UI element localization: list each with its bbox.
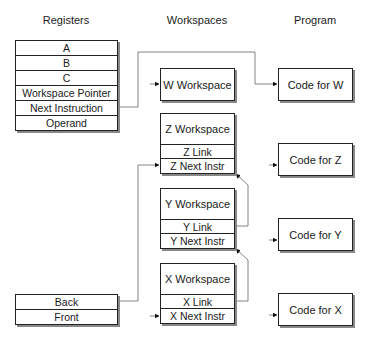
code-for-w: Code for W — [278, 68, 353, 101]
code-for-x-label: Code for X — [279, 294, 352, 325]
code-for-y: Code for Y — [278, 218, 353, 251]
x-workspace-title: X Workspace — [161, 264, 234, 295]
z-workspace-title: Z Workspace — [161, 114, 234, 145]
z-workspace: Z Workspace Z Link Z Next Instr — [160, 113, 235, 174]
registers-box: A B C Workspace Pointer Next Instruction… — [15, 40, 118, 131]
register-front: Front — [16, 310, 117, 324]
y-workspace: Y Workspace Y Link Y Next Instr — [160, 188, 235, 249]
register-a: A — [16, 41, 117, 56]
w-workspace: W Workspace — [160, 68, 235, 101]
code-for-x: Code for X — [278, 293, 353, 326]
y-workspace-title: Y Workspace — [161, 189, 234, 220]
code-for-w-label: Code for W — [279, 69, 352, 100]
z-next-instr: Z Next Instr — [161, 159, 234, 173]
x-workspace: X Workspace X Link X Next Instr — [160, 263, 235, 324]
register-b: B — [16, 56, 117, 71]
w-workspace-title: W Workspace — [161, 69, 234, 100]
x-next-instr: X Next Instr — [161, 309, 234, 323]
y-next-instr: Y Next Instr — [161, 234, 234, 248]
register-back: Back — [16, 295, 117, 310]
z-link: Z Link — [161, 145, 234, 159]
register-operand: Operand — [16, 116, 117, 130]
y-link: Y Link — [161, 220, 234, 234]
code-for-y-label: Code for Y — [279, 219, 352, 250]
register-c: C — [16, 71, 117, 86]
register-next-instruction: Next Instruction — [16, 101, 117, 116]
register-workspace-pointer: Workspace Pointer — [16, 86, 117, 101]
code-for-z: Code for Z — [278, 143, 353, 176]
code-for-z-label: Code for Z — [279, 144, 352, 175]
queue-box: Back Front — [15, 294, 118, 325]
x-link: X Link — [161, 295, 234, 309]
